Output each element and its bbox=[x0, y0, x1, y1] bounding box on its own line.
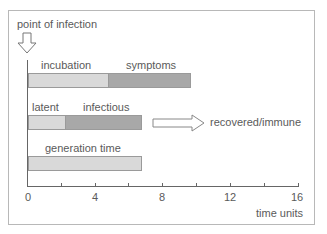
infectious-label: infectious bbox=[83, 101, 129, 113]
x-tick bbox=[27, 181, 28, 187]
latent-label: latent bbox=[32, 101, 59, 113]
point-of-infection-label: point of infection bbox=[17, 18, 97, 30]
generation-time-bar bbox=[28, 156, 142, 171]
x-tick-label-12: 12 bbox=[224, 191, 236, 203]
x-tick bbox=[95, 183, 96, 187]
down-arrow-icon bbox=[17, 32, 37, 54]
x-axis-line bbox=[27, 186, 299, 187]
x-tick bbox=[162, 183, 163, 187]
x-tick-label-0: 0 bbox=[25, 191, 31, 203]
infectious-bar bbox=[65, 115, 142, 130]
x-axis-label: time units bbox=[256, 207, 303, 219]
x-minor-tick bbox=[264, 183, 265, 187]
generation-time-label: generation time bbox=[45, 142, 121, 154]
symptoms-label: symptoms bbox=[126, 59, 176, 71]
x-tick-label-4: 4 bbox=[92, 191, 98, 203]
x-minor-tick bbox=[61, 183, 62, 187]
incubation-bar bbox=[28, 73, 109, 88]
x-tick bbox=[298, 183, 299, 187]
incubation-label: incubation bbox=[41, 59, 91, 71]
x-tick-label-16: 16 bbox=[291, 191, 303, 203]
right-arrow-icon bbox=[152, 114, 206, 132]
x-tick-label-8: 8 bbox=[159, 191, 165, 203]
latent-bar bbox=[28, 115, 66, 130]
recovered-immune-label: recovered/immune bbox=[210, 116, 301, 128]
x-minor-tick bbox=[128, 183, 129, 187]
x-minor-tick bbox=[196, 183, 197, 187]
symptoms-bar bbox=[108, 73, 191, 88]
x-tick bbox=[230, 183, 231, 187]
